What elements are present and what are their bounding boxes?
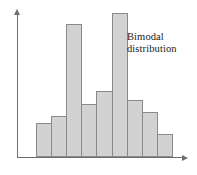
- bar: [112, 13, 128, 157]
- bar: [36, 123, 52, 157]
- bar: [96, 91, 112, 157]
- bar: [157, 134, 173, 157]
- y-axis-line: [17, 13, 18, 158]
- x-axis-line: [17, 157, 184, 158]
- y-axis-arrow-icon: [14, 9, 20, 15]
- bar: [51, 116, 67, 157]
- bimodal-histogram-figure: Bimodal distribution: [0, 0, 197, 175]
- bar: [66, 24, 82, 157]
- bar: [81, 104, 97, 157]
- bar: [127, 100, 143, 157]
- bar: [142, 112, 158, 157]
- bimodal-distribution-label: Bimodal distribution: [127, 31, 195, 54]
- x-axis-arrow-icon: [182, 155, 188, 161]
- annotation-line-2: distribution: [127, 43, 195, 55]
- bar-series: [36, 0, 172, 157]
- annotation-line-1: Bimodal: [127, 31, 195, 43]
